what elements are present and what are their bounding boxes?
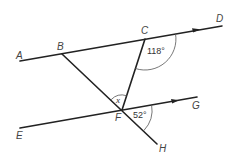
label-F: F: [115, 112, 122, 123]
label-H: H: [159, 143, 167, 154]
label-G: G: [192, 100, 200, 111]
line-BH: [62, 54, 157, 144]
label-E: E: [16, 130, 23, 141]
angle-label-52: 52°: [133, 110, 147, 120]
line-CF: [122, 39, 145, 110]
line-EG: [20, 97, 197, 128]
label-D: D: [216, 13, 223, 24]
label-A: A: [15, 50, 23, 61]
angle-label-118: 118°: [147, 46, 165, 56]
geometry-diagram: A B C D E F G H 118° x 52°: [0, 0, 234, 157]
line-AD: [20, 26, 222, 61]
label-B: B: [57, 41, 64, 52]
angle-label-x: x: [115, 95, 120, 105]
label-C: C: [141, 25, 149, 36]
